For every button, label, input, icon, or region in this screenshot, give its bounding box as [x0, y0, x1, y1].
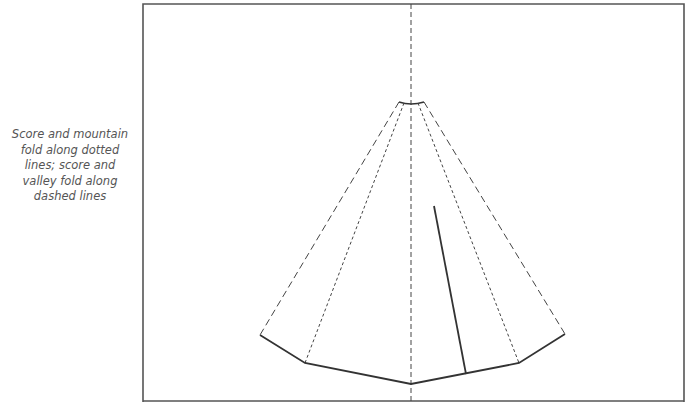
inner-cut-line — [434, 206, 466, 374]
left-mountain-fold-line — [305, 103, 404, 363]
right-mountain-fold-line — [418, 103, 519, 363]
card-frame — [143, 4, 684, 402]
bottom-cut-outline — [260, 334, 565, 384]
fold-diagram — [0, 0, 692, 403]
